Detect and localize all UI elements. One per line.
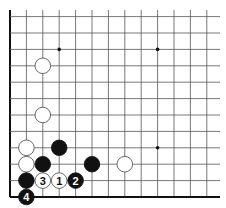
black-stone — [19, 173, 35, 189]
go-board: 3124 — [0, 0, 226, 208]
move-number-label: 4 — [23, 191, 30, 203]
star-point — [156, 48, 160, 52]
move-number-label: 2 — [73, 175, 79, 187]
white-stone: 3 — [35, 173, 51, 189]
white-stone — [35, 58, 51, 74]
black-stone — [51, 140, 67, 156]
stone-disc — [35, 107, 51, 123]
stone-disc — [35, 58, 51, 74]
stone-disc — [35, 156, 51, 172]
star-point — [156, 146, 160, 150]
move-number-label: 3 — [40, 175, 46, 187]
stone-disc — [19, 173, 35, 189]
black-stone — [35, 156, 51, 172]
move-number-label: 1 — [56, 175, 62, 187]
star-point — [57, 48, 61, 52]
white-stone: 1 — [51, 173, 67, 189]
black-stone — [84, 156, 100, 172]
stone-disc — [117, 156, 133, 172]
stone-disc — [51, 140, 67, 156]
white-stone — [35, 107, 51, 123]
stone-disc — [19, 140, 35, 156]
white-stone — [19, 140, 35, 156]
white-stone — [117, 156, 133, 172]
black-stone: 4 — [19, 189, 35, 205]
stone-disc — [19, 156, 35, 172]
black-stone: 2 — [68, 173, 84, 189]
stone-disc — [84, 156, 100, 172]
white-stone — [19, 156, 35, 172]
